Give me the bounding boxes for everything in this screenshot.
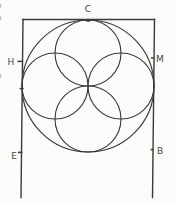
label-h: H bbox=[8, 57, 15, 67]
rect-right-edge bbox=[153, 20, 155, 198]
left-circle bbox=[22, 53, 88, 119]
top-circle bbox=[55, 20, 121, 86]
rect-left-edge bbox=[21, 20, 23, 198]
geometric-construction-figure: C H M E B bbox=[0, 0, 175, 202]
right-circle bbox=[88, 53, 154, 119]
label-b: B bbox=[157, 146, 163, 156]
label-e: E bbox=[11, 151, 17, 161]
label-m: M bbox=[156, 54, 164, 64]
bottom-circle bbox=[55, 86, 121, 152]
label-c: C bbox=[85, 4, 91, 14]
